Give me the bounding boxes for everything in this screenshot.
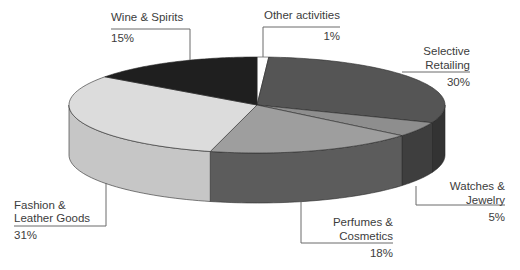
slice-percent-watches: 5% xyxy=(488,211,505,223)
slice-label-wine: Wine & Spirits xyxy=(111,11,183,23)
slice-label-fashion: Fashion & xyxy=(14,199,66,211)
slice-percent-wine: 15% xyxy=(111,32,134,44)
slice-percent-perfumes: 18% xyxy=(370,247,393,259)
slice-label-perfumes: Cosmetics xyxy=(339,230,393,242)
slice-label-selective: Selective xyxy=(423,45,470,57)
slice-label-selective: Retailing xyxy=(425,59,470,71)
slice-percent-fashion: 31% xyxy=(14,229,37,241)
slice-percent-other: 1% xyxy=(323,30,340,42)
slice-label-watches: Watches & xyxy=(450,180,506,192)
slice-label-watches: Jewelry xyxy=(466,194,505,206)
slice-label-perfumes: Perfumes & xyxy=(333,216,393,228)
slice-percent-selective: 30% xyxy=(447,76,470,88)
slice-label-fashion: Leather Goods xyxy=(14,212,90,224)
slice-label-other: Other activities xyxy=(264,9,340,21)
pie-chart: Other activities1%SelectiveRetailing30%W… xyxy=(0,0,520,270)
pie-tops xyxy=(69,57,445,153)
